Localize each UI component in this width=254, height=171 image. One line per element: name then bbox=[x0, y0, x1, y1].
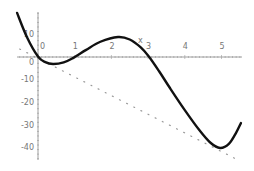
x-tick-label: 5 bbox=[220, 42, 225, 51]
x-axis-label: x bbox=[138, 36, 143, 45]
tangent-line bbox=[20, 49, 240, 161]
x-tick-label: 1 bbox=[73, 42, 78, 51]
x-tick-label: 2 bbox=[109, 42, 114, 51]
x-tick-label: 4 bbox=[183, 42, 188, 51]
x-tick-label: 0 bbox=[40, 42, 45, 51]
x-tick-labels: 012345 bbox=[40, 42, 225, 51]
y-tick-label: -40 bbox=[21, 143, 34, 152]
chart-plot-area: 012345 100-10-20-30-40 x bbox=[0, 0, 254, 171]
y-tick-label: 0 bbox=[29, 58, 34, 67]
y-tick-label: -30 bbox=[21, 121, 34, 130]
y-tick-label: -20 bbox=[21, 98, 34, 107]
function-curve bbox=[17, 13, 241, 148]
x-tick-label: 3 bbox=[146, 42, 151, 51]
x-axis-ticks bbox=[20, 55, 240, 59]
y-tick-label: -10 bbox=[21, 75, 34, 84]
